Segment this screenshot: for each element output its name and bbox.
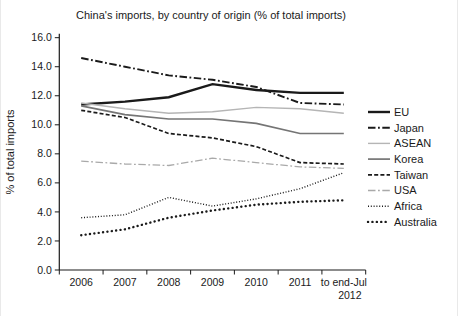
y-axis-label: % of total imports (4, 109, 16, 194)
legend-label-africa: Africa (394, 200, 423, 212)
y-tick-label: 10.0 (31, 118, 52, 130)
axes: 0.02.04.06.08.010.012.014.016.0200620072… (31, 31, 367, 301)
series-line-japan (81, 58, 344, 105)
series-lines (81, 58, 344, 235)
legend: EUJapanASEANKoreaTaiwanUSAAfricaAustrali… (368, 106, 438, 228)
legend-label-japan: Japan (394, 122, 424, 134)
x-tick-label: 2010 (245, 276, 269, 288)
y-tick-label: 14.0 (31, 60, 52, 72)
y-tick-label: 16.0 (31, 31, 52, 43)
y-tick-label: 12.0 (31, 89, 52, 101)
series-line-korea (81, 106, 344, 134)
y-tick-label: 8.0 (37, 147, 52, 159)
legend-label-australia: Australia (394, 216, 438, 228)
y-tick-label: 0.0 (37, 264, 52, 276)
series-line-asean (81, 103, 344, 113)
x-tick-label: 2008 (157, 276, 181, 288)
x-tick-label: to end-Jul2012 (321, 276, 367, 301)
legend-label-usa: USA (394, 184, 417, 196)
series-line-australia (81, 200, 344, 235)
chart-panel: China's imports, by country of origin (%… (0, 0, 458, 316)
legend-label-asean: ASEAN (394, 137, 431, 149)
x-tick-label: 2007 (113, 276, 137, 288)
imports-line-chart: China's imports, by country of origin (%… (1, 0, 458, 316)
y-tick-label: 2.0 (37, 235, 52, 247)
legend-label-eu: EU (394, 106, 409, 118)
chart-title: China's imports, by country of origin (%… (76, 9, 346, 21)
series-line-africa (81, 173, 344, 218)
y-tick-label: 6.0 (37, 176, 52, 188)
x-tick-label: 2011 (289, 276, 312, 288)
x-tick-label: 2009 (201, 276, 225, 288)
legend-label-korea: Korea (394, 153, 424, 165)
y-tick-label: 4.0 (37, 206, 52, 218)
legend-label-taiwan: Taiwan (394, 169, 428, 181)
series-line-eu (81, 84, 344, 104)
x-tick-label: 2006 (70, 276, 94, 288)
